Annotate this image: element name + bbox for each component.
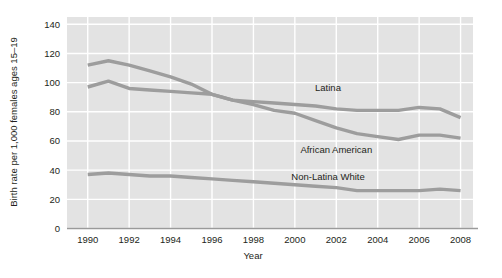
y-tick-label-100: 100	[44, 77, 60, 88]
plot-area-background	[67, 17, 473, 228]
x-tick-label-2000: 2000	[284, 234, 305, 245]
x-tick-label-2008: 2008	[450, 234, 471, 245]
x-tick-label-1994: 1994	[160, 234, 181, 245]
x-tick-label-1990: 1990	[77, 234, 98, 245]
y-tick-label-80: 80	[49, 106, 60, 117]
chart-figure: 020406080100120140 199019921994199619982…	[0, 0, 502, 278]
x-tick-label-1996: 1996	[201, 234, 222, 245]
series-label-non-latina-white: Non-Latina White	[291, 171, 364, 182]
x-tick-label-2002: 2002	[326, 234, 347, 245]
y-tick-label-120: 120	[44, 48, 60, 59]
y-tick-label-140: 140	[44, 19, 60, 30]
y-axis-title: Birth rate per 1,000 females ages 15–19	[8, 37, 19, 207]
y-tick-label-20: 20	[49, 194, 60, 205]
x-axis-title: Year	[243, 250, 262, 261]
series-label-latina: Latina	[315, 82, 342, 93]
x-tick-label-2006: 2006	[409, 234, 430, 245]
y-tick-label-0: 0	[55, 223, 60, 234]
y-tick-label-60: 60	[49, 135, 60, 146]
x-tick-label-1998: 1998	[243, 234, 264, 245]
x-tick-label-2004: 2004	[367, 234, 388, 245]
y-tick-label-40: 40	[49, 165, 60, 176]
teen-birth-rate-line-chart: 020406080100120140 199019921994199619982…	[0, 0, 502, 278]
x-tick-label-1992: 1992	[119, 234, 140, 245]
series-label-african-american: African American	[300, 144, 372, 155]
